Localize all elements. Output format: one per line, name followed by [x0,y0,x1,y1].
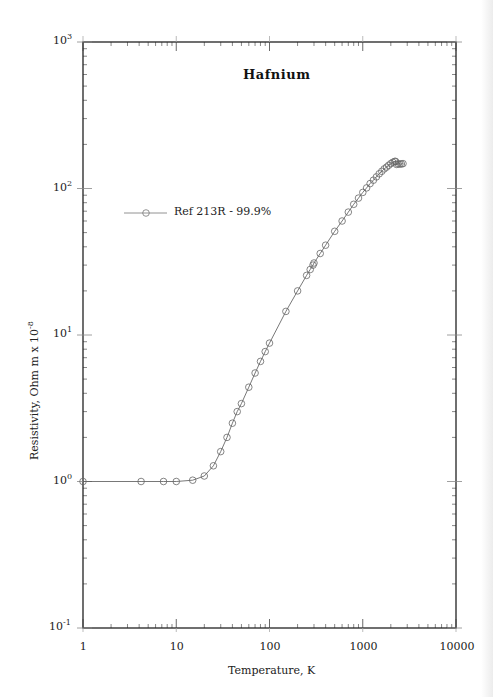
minor-ticks [83,42,456,628]
page-edge-shadow [481,0,493,697]
chart-title: Hafnium [243,67,310,82]
resistivity-chart [0,0,493,697]
legend-label: Ref 213R - 99.9% [174,205,271,218]
y-tick-label: 102 [53,179,72,194]
x-tick-label: 1 [80,640,87,653]
x-tick-label: 100 [260,640,281,653]
y-axis-label-exponent: -8 [26,321,35,329]
x-axis-label: Temperature, K [228,664,315,677]
y-tick-label: 103 [53,32,72,47]
y-axis-label-text: Resistivity, Ohm m x 10 [28,329,41,460]
x-tick-label: 10 [170,640,184,653]
y-tick-label: 101 [53,325,72,340]
y-tick-label: 100 [53,472,72,487]
y-axis-label: Resistivity, Ohm m x 10-8 [26,321,41,460]
major-ticks [77,36,462,632]
plot-frame [83,42,456,628]
x-tick-label: 10000 [440,640,475,653]
legend-marker-icon [124,210,167,217]
y-tick-label: 10-1 [49,618,71,633]
x-tick-label: 1000 [350,640,378,653]
